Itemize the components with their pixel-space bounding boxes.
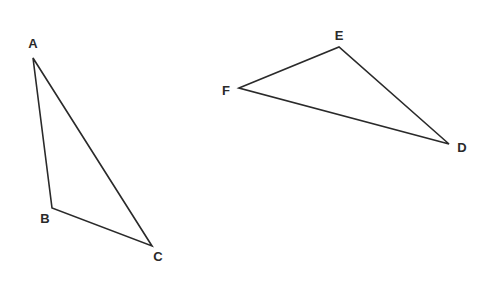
triangle-abc-shape <box>33 58 152 246</box>
vertex-label-a: A <box>28 36 38 51</box>
triangle-def: F E D <box>222 28 467 155</box>
diagram-canvas: A B C F E D <box>0 0 484 281</box>
vertex-label-e: E <box>335 28 344 43</box>
triangle-abc: A B C <box>28 36 163 264</box>
vertex-label-b: B <box>40 211 49 226</box>
vertex-label-c: C <box>153 249 163 264</box>
triangle-def-shape <box>239 47 449 144</box>
vertex-label-f: F <box>222 83 230 98</box>
vertex-label-d: D <box>457 140 466 155</box>
